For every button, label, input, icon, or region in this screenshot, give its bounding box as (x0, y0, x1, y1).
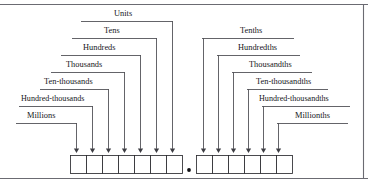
arrow-head-millionths (276, 149, 281, 153)
arrow-head-thousands (122, 149, 127, 153)
arrow-head-ten-thousands (106, 149, 111, 153)
decimal-point-icon (187, 168, 191, 172)
arrow-head-hundredths (216, 149, 221, 153)
place-label-hundred-thousands: Hundred-thousands (21, 94, 84, 103)
digit-cell[interactable] (245, 156, 261, 174)
arrow-head-tens (154, 149, 159, 153)
arrow-head-thousandths (231, 149, 236, 153)
digit-cell[interactable] (135, 156, 151, 174)
whole-number-cells (71, 156, 183, 174)
arrow-head-millions (74, 149, 79, 153)
arrow-head-hundred-thousandths (261, 149, 266, 153)
arrow-head-ten-thousandths (246, 149, 251, 153)
place-label-thousands: Thousands (66, 60, 102, 69)
place-value-chart: UnitsTensHundredsThousandsTen-thousandsH… (0, 0, 368, 184)
whole-number-leaders (16, 22, 175, 154)
whole-number-labels: UnitsTensHundredsThousandsTen-thousandsH… (21, 9, 132, 120)
arrow-head-hundred-thousands (90, 149, 95, 153)
place-label-hundreds: Hundreds (83, 43, 116, 52)
place-label-ten-thousands: Ten-thousands (44, 77, 93, 86)
arrow-head-hundreds (138, 149, 143, 153)
place-label-hundred-thousandths: Hundred-thousandths (259, 94, 329, 103)
digit-cell[interactable] (151, 156, 167, 174)
digit-cell[interactable] (103, 156, 119, 174)
digit-cell[interactable] (261, 156, 277, 174)
digit-cell[interactable] (87, 156, 103, 174)
digit-cell[interactable] (213, 156, 229, 174)
digit-cell[interactable] (277, 156, 293, 174)
place-label-units: Units (114, 9, 132, 18)
place-value-chart-svg: UnitsTensHundredsThousandsTen-thousandsH… (0, 0, 368, 184)
place-label-ten-thousandths: Ten-thousandths (256, 77, 311, 86)
decimal-cells (197, 156, 293, 174)
digit-cell[interactable] (197, 156, 213, 174)
digit-cell[interactable] (71, 156, 87, 174)
place-label-tenths: Tenths (240, 26, 262, 35)
decimal-labels: TenthsHundredthsThousandthsTen-thousandt… (238, 26, 330, 120)
arrow-head-tenths (201, 149, 206, 153)
arrow-head-units (170, 149, 175, 153)
page-frame (0, 5, 368, 179)
digit-cell[interactable] (119, 156, 135, 174)
place-label-millions: Millions (27, 111, 55, 120)
digit-cell[interactable] (229, 156, 245, 174)
place-label-tens: Tens (104, 26, 120, 35)
place-label-thousandths: Thousandths (249, 60, 292, 69)
place-label-hundredths: Hundredths (238, 43, 277, 52)
place-label-millionths: Millionths (295, 111, 330, 120)
digit-cell[interactable] (167, 156, 183, 174)
